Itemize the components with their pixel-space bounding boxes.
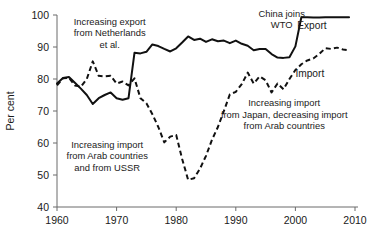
annotation-line: from Netherlands — [74, 27, 146, 38]
annotation-line: WTO — [271, 19, 293, 30]
annotation-line: from Japan, decreasing import — [221, 109, 348, 120]
annotation-line: from Arab countries — [244, 120, 326, 131]
chart-container: 405060708090100196019701980199020002010 … — [0, 0, 376, 238]
y-axis-title-text: Per cent — [4, 91, 16, 130]
x-tick-label: 2000 — [284, 214, 308, 226]
line-chart: 405060708090100196019701980199020002010 … — [0, 0, 376, 238]
y-tick-label: 80 — [37, 73, 49, 85]
y-axis-title: Per cent — [4, 91, 16, 130]
y-tick-label: 60 — [37, 137, 49, 149]
y-tick-label: 40 — [37, 201, 49, 213]
annotation-export-netherlands: Increasing exportfrom Netherlandset al. — [74, 16, 146, 50]
annotation-line: Increasing import — [71, 139, 143, 150]
y-tick-label: 50 — [37, 169, 49, 181]
chart-annotations: Increasing exportfrom Netherlandset al.I… — [67, 8, 348, 173]
annotation-line: and from USSR — [74, 162, 140, 173]
annotation-line: et al. — [99, 39, 119, 50]
export-label: Export — [297, 20, 327, 31]
y-tick-label: 100 — [31, 9, 49, 21]
annotation-import-japan-arab: Increasing importfrom Japan, decreasing … — [221, 97, 348, 131]
annotation-line: from Arab countries — [67, 150, 149, 161]
y-tick-label: 70 — [37, 105, 49, 117]
x-tick-label: 1980 — [165, 214, 189, 226]
x-tick-label: 2010 — [343, 214, 367, 226]
annotation-line: China joins — [258, 8, 305, 19]
x-tick-label: 1990 — [224, 214, 248, 226]
annotation-line: Increasing export — [74, 16, 146, 27]
import-label: Import — [295, 68, 324, 79]
x-tick-label: 1970 — [105, 214, 129, 226]
y-tick-label: 90 — [37, 41, 49, 53]
annotation-line: Increasing import — [248, 97, 320, 108]
x-tick-label: 1960 — [45, 214, 69, 226]
annotation-import-arab-ussr: Increasing importfrom Arab countriesand … — [67, 139, 149, 173]
